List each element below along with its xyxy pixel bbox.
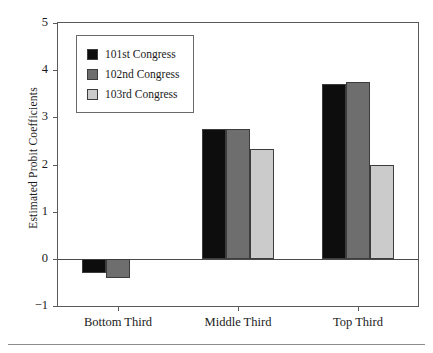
x-axis-tick bbox=[238, 306, 239, 311]
x-axis-tick bbox=[358, 306, 359, 311]
legend-swatch bbox=[87, 69, 98, 80]
y-axis-tick-label: −1 bbox=[35, 298, 48, 313]
y-axis-tick: 0 bbox=[53, 259, 58, 260]
y-axis-tick-label: 2 bbox=[42, 157, 48, 172]
y-axis-tick: 3 bbox=[53, 117, 58, 118]
bar bbox=[346, 82, 370, 258]
legend-item: 102nd Congress bbox=[87, 64, 179, 84]
legend-label: 102nd Congress bbox=[105, 68, 179, 80]
y-axis-tick-label: 0 bbox=[42, 251, 48, 266]
bar bbox=[106, 259, 130, 278]
y-axis-tick-label: 4 bbox=[42, 62, 48, 77]
bar bbox=[322, 84, 346, 259]
bar bbox=[370, 165, 394, 259]
legend-swatch bbox=[87, 89, 98, 100]
y-axis-tick: 4 bbox=[53, 70, 58, 71]
legend-swatch bbox=[87, 49, 98, 60]
legend-item: 103rd Congress bbox=[87, 84, 179, 104]
plot-surface: −1012345 Bottom ThirdMiddle ThirdTop Thi… bbox=[58, 23, 418, 306]
bar bbox=[202, 129, 226, 259]
bar bbox=[82, 259, 106, 273]
legend-item: 101st Congress bbox=[87, 44, 179, 64]
x-axis-tick-label: Top Third bbox=[333, 315, 383, 330]
y-axis-tick: −1 bbox=[53, 306, 58, 307]
bar bbox=[226, 129, 250, 259]
x-axis-tick bbox=[118, 306, 119, 311]
y-axis-tick: 2 bbox=[53, 165, 58, 166]
y-axis-tick-label: 3 bbox=[42, 109, 48, 124]
legend-label: 103rd Congress bbox=[105, 88, 178, 100]
x-axis-tick-label: Bottom Third bbox=[84, 315, 152, 330]
y-axis-tick-label: 5 bbox=[42, 15, 48, 30]
bar bbox=[250, 149, 274, 258]
y-axis-title: Estimated Probit Coefficients bbox=[27, 43, 39, 273]
y-axis-tick-label: 1 bbox=[42, 204, 48, 219]
x-axis-tick-label: Middle Third bbox=[205, 315, 272, 330]
legend: 101st Congress102nd Congress103rd Congre… bbox=[76, 35, 194, 113]
plot-area: −1012345 Bottom ThirdMiddle ThirdTop Thi… bbox=[57, 22, 419, 307]
y-axis-tick: 1 bbox=[53, 212, 58, 213]
legend-label: 101st Congress bbox=[105, 48, 176, 60]
figure: Estimated Probit Coefficients −1012345 B… bbox=[0, 0, 433, 353]
figure-bottom-rule bbox=[8, 344, 425, 345]
y-axis-tick: 5 bbox=[53, 23, 58, 24]
